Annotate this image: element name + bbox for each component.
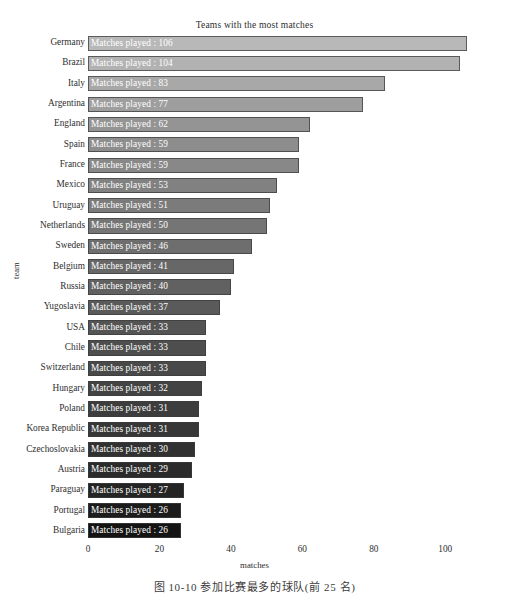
bar-value-label: Matches played : 77 [91,97,168,112]
bar-value-label: Matches played : 33 [91,361,168,376]
y-tick-label: USA [1,322,85,332]
y-tick-labels: GermanyBrazilItalyArgentinaEnglandSpainF… [0,33,85,541]
y-tick-label: Poland [1,403,85,413]
y-tick-label: Yugoslavia [1,301,85,311]
bar-value-label: Matches played : 26 [91,503,168,518]
bar-value-label: Matches played : 83 [91,76,168,91]
y-tick-label: Chile [1,342,85,352]
y-tick-label: Switzerland [1,362,85,372]
y-tick-label: Argentina [1,98,85,108]
bar-row: Matches played : 30 [88,439,481,459]
y-tick-label: Bulgaria [1,525,85,535]
bar-row: Matches played : 33 [88,317,481,337]
bar-row: Matches played : 77 [88,94,481,114]
bar-row: Matches played : 51 [88,196,481,216]
x-tick-40: 40 [226,544,235,554]
bar-value-label: Matches played : 51 [91,198,168,213]
figure-container: Teams with the most matches team Germany… [0,0,509,614]
bar-row: Matches played : 31 [88,419,481,439]
bar-row: Matches played : 41 [88,257,481,277]
bar-value-label: Matches played : 31 [91,401,168,416]
bar-row: Matches played : 106 [88,33,481,53]
bar-row: Matches played : 37 [88,297,481,317]
bar-value-label: Matches played : 50 [91,218,168,233]
y-tick-label: Italy [1,78,85,88]
y-tick-label: Germany [1,37,85,47]
chart-title: Teams with the most matches [0,20,509,30]
y-tick-label: Brazil [1,57,85,67]
bar-row: Matches played : 59 [88,155,481,175]
bar-value-label: Matches played : 31 [91,422,168,437]
bar-row: Matches played : 104 [88,53,481,73]
bar-row: Matches played : 33 [88,358,481,378]
bar-value-label: Matches played : 46 [91,239,168,254]
bar-value-label: Matches played : 106 [91,36,173,51]
bar-value-label: Matches played : 33 [91,320,168,335]
bar-row: Matches played : 27 [88,480,481,500]
x-tick-labels: 020406080100 [0,544,509,560]
bar-value-label: Matches played : 30 [91,442,168,457]
bar-row: Matches played : 26 [88,521,481,541]
bar-value-label: Matches played : 104 [91,56,173,71]
bar-row: Matches played : 83 [88,74,481,94]
bar-row: Matches played : 26 [88,500,481,520]
figure-caption: 图 10-10 参加比赛最多的球队(前 25 名) [0,578,509,594]
bar-value-label: Matches played : 27 [91,483,168,498]
y-tick-label: Uruguay [1,200,85,210]
bar-row: Matches played : 40 [88,277,481,297]
y-tick-label: Austria [1,464,85,474]
y-tick-label: Mexico [1,179,85,189]
bar-row: Matches played : 62 [88,114,481,134]
bar-value-label: Matches played : 29 [91,462,168,477]
bar-value-label: Matches played : 59 [91,137,168,152]
bar-value-label: Matches played : 41 [91,259,168,274]
y-tick-label: Korea Republic [1,423,85,433]
bar-value-label: Matches played : 37 [91,300,168,315]
x-tick-60: 60 [298,544,307,554]
y-tick-label: Hungary [1,383,85,393]
bar-row: Matches played : 59 [88,135,481,155]
y-tick-label: Russia [1,281,85,291]
bar-value-label: Matches played : 32 [91,381,168,396]
y-tick-label: Sweden [1,240,85,250]
x-tick-100: 100 [438,544,452,554]
bar-row: Matches played : 32 [88,378,481,398]
x-tick-20: 20 [155,544,164,554]
x-tick-0: 0 [86,544,91,554]
y-tick-label: England [1,118,85,128]
x-axis-label: matches [0,560,509,570]
bar-row: Matches played : 50 [88,216,481,236]
bar-value-label: Matches played : 59 [91,158,168,173]
bar-row: Matches played : 53 [88,175,481,195]
y-tick-label: Portugal [1,505,85,515]
bar-value-label: Matches played : 53 [91,178,168,193]
bar-row: Matches played : 46 [88,236,481,256]
y-tick-label: Belgium [1,261,85,271]
y-tick-label: Netherlands [1,220,85,230]
bar-row: Matches played : 33 [88,338,481,358]
bar-row: Matches played : 29 [88,460,481,480]
bar-value-label: Matches played : 40 [91,279,168,294]
plot-area: Matches played : 106Matches played : 104… [88,33,481,541]
bar-row: Matches played : 31 [88,399,481,419]
bar-value-label: Matches played : 62 [91,117,168,132]
y-tick-label: Paraguay [1,484,85,494]
bar-value-label: Matches played : 26 [91,523,168,538]
x-tick-80: 80 [369,544,378,554]
y-tick-label: Spain [1,139,85,149]
y-tick-label: Czechoslovakia [1,444,85,454]
y-tick-label: France [1,159,85,169]
bar-value-label: Matches played : 33 [91,340,168,355]
